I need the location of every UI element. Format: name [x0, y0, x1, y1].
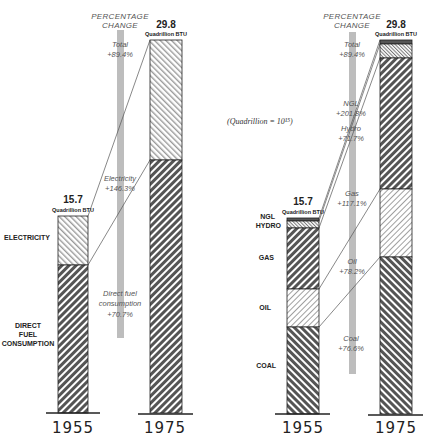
bar-1955-hydro	[287, 221, 319, 228]
direct-change-label-2: consumption	[99, 299, 142, 308]
bar-1955-coal	[287, 327, 319, 414]
total-change: +89.4%	[339, 50, 365, 59]
pc-title-line2: CHANGE	[334, 21, 370, 30]
electricity-change-label: Electricity	[104, 174, 137, 183]
cat-direct-2: FUEL	[19, 331, 38, 338]
unit-1975: Quadrillion BTU	[145, 31, 187, 37]
quadrillion-note: (Quadrillion = 10¹⁵)	[227, 117, 293, 126]
total-1975: 29.8	[386, 19, 406, 30]
bar-1955-direct-fuel	[58, 265, 88, 413]
total-1975: 29.8	[156, 19, 176, 30]
unit-1955: Quadrillion BTU	[282, 209, 324, 215]
bar-1975-electricity	[150, 40, 182, 160]
right-chart: PERCENTAGE CHANGE Total +89.4% NGL +201.…	[227, 12, 423, 437]
oil-change-label: Oil	[347, 257, 357, 266]
coal-change: +76.6%	[338, 344, 364, 353]
ngl-change-label: NGL	[343, 99, 358, 108]
cat-ngl: NGL	[260, 213, 276, 220]
electricity-change: +146.3%	[105, 184, 135, 193]
bar-1975-oil	[380, 189, 412, 257]
pc-title-line1: PERCENTAGE	[323, 12, 381, 21]
bar-1975-direct-fuel	[150, 160, 182, 413]
year-1975: 1975	[375, 419, 417, 437]
cat-hydro: HYDRO	[256, 222, 282, 229]
year-1955: 1955	[52, 419, 94, 437]
total-label: Total	[344, 40, 360, 49]
energy-chart: PERCENTAGE CHANGE Total +89.4% Electrici…	[0, 0, 433, 440]
unit-1975: Quadrillion BTU	[375, 31, 417, 37]
direct-change: +70.7%	[107, 310, 133, 319]
bar-1955-gas	[287, 228, 319, 289]
total-1955: 15.7	[63, 194, 83, 205]
bar-1955-oil	[287, 289, 319, 327]
bar-1975-ngl	[380, 40, 412, 44]
bar-1975-coal	[380, 257, 412, 414]
coal-change-label: Coal	[343, 334, 359, 343]
total-change: +89.4%	[107, 50, 133, 59]
year-1975: 1975	[144, 419, 186, 437]
bar-1955-ngl	[287, 218, 319, 221]
year-1955: 1955	[282, 419, 324, 437]
pc-title-line1: PERCENTAGE	[91, 12, 149, 21]
cat-direct-1: DIRECT	[15, 322, 42, 329]
left-chart: PERCENTAGE CHANGE Total +89.4% Electrici…	[2, 12, 193, 437]
gas-change: +117.1%	[337, 199, 367, 208]
cat-coal: COAL	[256, 362, 277, 369]
gas-change-label: Gas	[345, 189, 359, 198]
bar-1975-hydro	[380, 44, 412, 58]
total-1955: 15.7	[293, 196, 313, 207]
unit-1955: Quadrillion BTU	[52, 207, 94, 213]
cat-gas: GAS	[259, 254, 275, 261]
cat-oil: OIL	[259, 304, 271, 311]
total-label: Total	[112, 40, 128, 49]
bar-1975-gas	[380, 58, 412, 189]
bar-1955-electricity	[58, 216, 88, 265]
oil-change: +78.2%	[339, 267, 365, 276]
direct-change-label-1: Direct fuel	[103, 289, 137, 298]
pc-title-line2: CHANGE	[102, 21, 138, 30]
ngl-change: +201.8%	[336, 109, 366, 118]
cat-electricity: ELECTRICITY	[4, 234, 50, 241]
cat-direct-3: CONSUMPTION	[2, 340, 55, 347]
